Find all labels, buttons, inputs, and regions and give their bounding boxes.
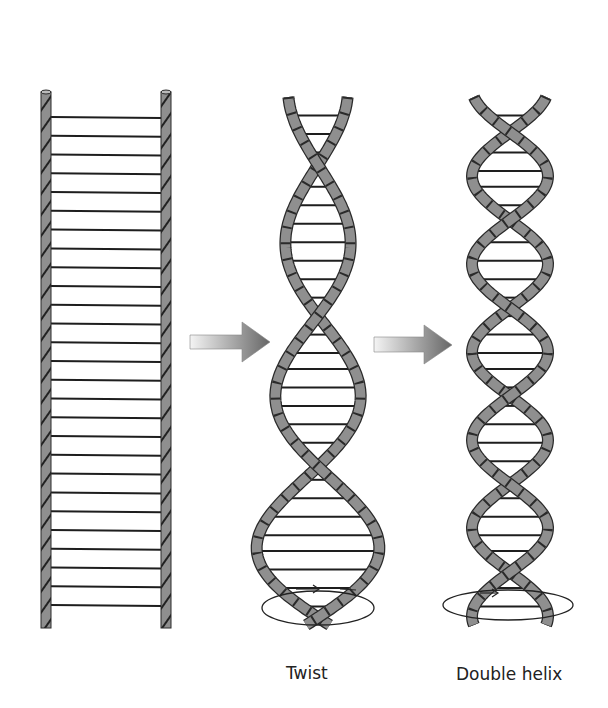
ladder-panel bbox=[41, 90, 171, 628]
arrow-to-double-helix bbox=[374, 325, 452, 364]
arrow-to-twist bbox=[190, 322, 270, 362]
double-helix-label: Double helix bbox=[456, 664, 562, 684]
twist-label: Twist bbox=[286, 663, 328, 683]
dna-diagram bbox=[0, 0, 608, 708]
twist-panel bbox=[257, 97, 380, 625]
double-helix-panel bbox=[472, 97, 548, 625]
rotation-indicator-helix bbox=[443, 589, 573, 620]
